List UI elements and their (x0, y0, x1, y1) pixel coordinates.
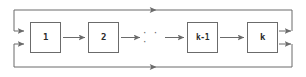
node-label-k: k (260, 33, 265, 42)
node-box-k: k (247, 22, 278, 53)
flow-diagram: 1 2 k-1 k · · · (0, 0, 306, 77)
node-label-2: 2 (101, 33, 106, 42)
node-box-1: 1 (30, 22, 61, 53)
ellipsis-label: · · · (142, 31, 166, 44)
node-box-2: 2 (88, 22, 119, 53)
ellipsis-dots: · · · (142, 29, 166, 47)
node-label-k-minus-1: k-1 (196, 33, 209, 41)
node-label-1: 1 (43, 33, 48, 42)
node-box-k-minus-1: k-1 (187, 22, 218, 53)
